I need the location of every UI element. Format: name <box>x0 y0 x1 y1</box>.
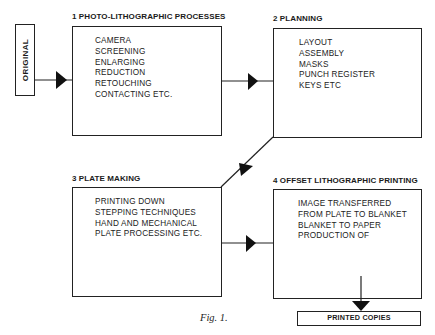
list-item: FROM PLATE TO BLANKET <box>298 210 407 221</box>
arrow-photolitho-to-planning <box>221 73 273 90</box>
stage-4-items: IMAGE TRANSFERRED FROM PLATE TO BLANKET … <box>298 199 407 242</box>
list-item: PRODUCTION OF <box>298 231 407 242</box>
stage-4-title: 4 OFFSET LITHOGRAPHIC PRINTING <box>273 176 418 185</box>
stage-2-title: 2 PLANNING <box>273 14 322 23</box>
arrow-original-to-photolitho <box>35 71 73 89</box>
list-item: RETOUCHING <box>95 79 172 90</box>
list-item: KEYS ETC <box>299 81 375 92</box>
list-item: PRINTING DOWN <box>95 197 202 208</box>
stage-2-items: LAYOUT ASSEMBLY MASKS PUNCH REGISTER KEY… <box>299 38 375 92</box>
list-item: MASKS <box>299 60 375 71</box>
figure-caption: Fig. 1. <box>200 312 228 323</box>
stage-1-items: CAMERA SCREENING ENLARGING REDUCTION RET… <box>95 36 172 101</box>
list-item: IMAGE TRANSFERRED <box>298 199 407 210</box>
list-item: REDUCTION <box>95 68 172 79</box>
list-item: CAMERA <box>95 36 172 47</box>
list-item: PUNCH REGISTER <box>299 70 375 81</box>
arrow-platemaking-to-offset <box>221 235 273 252</box>
stage-3-title: 3 PLATE MAKING <box>72 174 140 183</box>
list-item: SCREENING <box>95 47 172 58</box>
list-item: STEPPING TECHNIQUES <box>95 208 202 219</box>
list-item: CONTACTING ETC. <box>95 90 172 101</box>
list-item: HAND AND MECHANICAL <box>95 219 202 230</box>
original-box: ORIGINAL <box>15 24 35 96</box>
list-item: BLANKET TO PAPER <box>298 221 407 232</box>
printed-copies-box: PRINTED COPIES <box>297 311 421 326</box>
list-item: ASSEMBLY <box>299 49 375 60</box>
stage-3-items: PRINTING DOWN STEPPING TECHNIQUES HAND A… <box>95 197 202 240</box>
list-item: PLATE PROCESSING ETC. <box>95 229 202 240</box>
arrow-planning-to-platemaking <box>221 137 273 187</box>
original-label: ORIGINAL <box>21 39 30 81</box>
stage-1-title: 1 PHOTO-LITHOGRAPHIC PROCESSES <box>72 12 226 21</box>
list-item: ENLARGING <box>95 58 172 69</box>
list-item: LAYOUT <box>299 38 375 49</box>
